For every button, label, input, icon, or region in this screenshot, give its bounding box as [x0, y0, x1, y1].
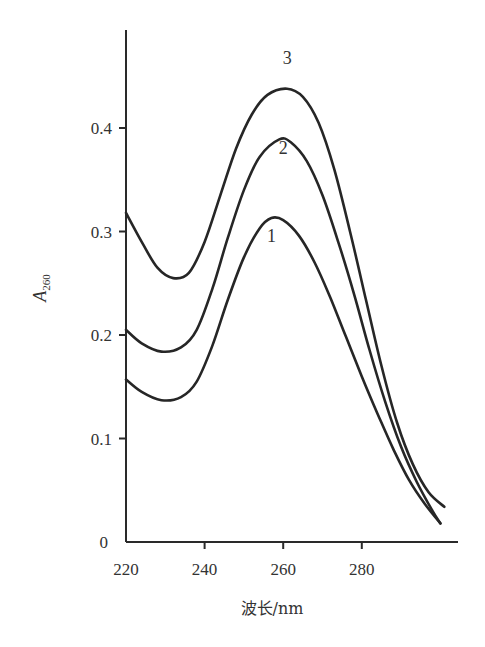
x-tick-label: 240 — [192, 560, 218, 579]
y-axis-label-sub: 260 — [40, 274, 52, 291]
uv-absorbance-chart: 00.10.20.30.4 220240260280 123 波长/nm A26… — [0, 0, 485, 647]
curve-2 — [126, 138, 440, 523]
y-axis-label: A260 — [30, 274, 52, 303]
y-tick-label: 0 — [100, 533, 109, 552]
x-axis: 220240260280 — [113, 542, 458, 579]
y-tick-label: 0.4 — [91, 119, 113, 138]
curve-1 — [126, 217, 440, 523]
y-tick-label: 0.3 — [91, 223, 112, 242]
x-ticks: 220240260280 — [113, 542, 374, 579]
x-tick-label: 280 — [349, 560, 375, 579]
curve-label-2: 2 — [279, 138, 288, 158]
x-tick-label: 260 — [270, 560, 296, 579]
y-ticks: 00.10.20.30.4 — [91, 119, 126, 552]
curve-label-3: 3 — [283, 48, 292, 68]
x-axis-label: 波长/nm — [241, 599, 304, 618]
y-tick-label: 0.1 — [91, 430, 112, 449]
y-axis: 00.10.20.30.4 — [91, 30, 126, 552]
y-tick-label: 0.2 — [91, 326, 112, 345]
curve-labels: 123 — [267, 48, 292, 246]
curve-label-1: 1 — [267, 226, 276, 246]
x-tick-label: 220 — [113, 560, 139, 579]
